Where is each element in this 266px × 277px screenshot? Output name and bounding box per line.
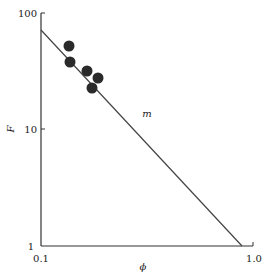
x-axis-label: ϕ	[140, 261, 147, 272]
y-tick-label-1: 1	[28, 241, 34, 252]
y-tick-label-100: 100	[18, 8, 37, 19]
data-point	[82, 66, 93, 77]
y-axis-label: F	[5, 124, 16, 133]
y-tick-label-10: 10	[24, 124, 37, 135]
data-point	[93, 73, 104, 84]
data-point	[64, 41, 75, 52]
data-points	[64, 41, 104, 94]
data-point	[87, 83, 98, 94]
data-point	[65, 57, 76, 68]
x-tick-label-max: 1.0	[246, 253, 262, 264]
line-label-m: m	[142, 108, 151, 119]
x-tick-label-min: 0.1	[33, 253, 49, 264]
log-log-chart: 100 10 1 0.1 1.0 F ϕ m	[0, 0, 266, 277]
